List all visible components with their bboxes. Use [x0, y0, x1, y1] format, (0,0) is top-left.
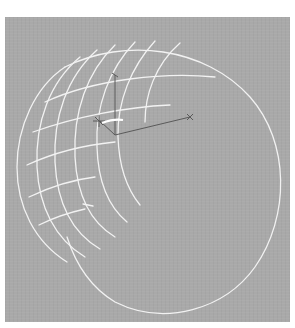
cylinder-front-rim [65, 50, 281, 313]
cylinder-object[interactable] [17, 41, 281, 313]
pivot-highlight [102, 120, 123, 123]
viewport-scene[interactable] [5, 17, 290, 322]
perspective-viewport[interactable]: cylinder [5, 17, 290, 322]
gizmo-x-axis [115, 117, 190, 135]
